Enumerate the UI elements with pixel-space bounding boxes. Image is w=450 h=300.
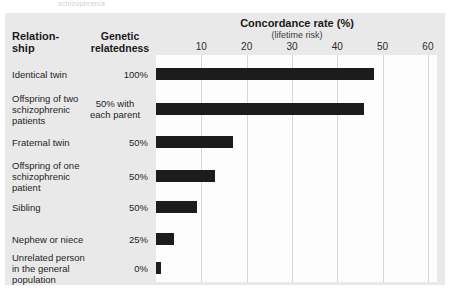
row-relatedness-line: 50% (82, 137, 148, 148)
bar-row-5 (156, 201, 197, 213)
row-relatedness-line: 50% (82, 202, 148, 213)
row-relatedness-line: each parent (80, 109, 150, 120)
gridline-10 (201, 55, 202, 282)
x-tick-20: 20 (234, 41, 260, 52)
bar-row-7 (156, 262, 161, 274)
row-label-line: population (12, 274, 98, 285)
gridline-40 (337, 55, 338, 282)
row-label-line: Offspring of one (12, 160, 98, 171)
row-relatedness-line: 25% (82, 234, 148, 245)
row-relatedness-6: 25% (82, 234, 148, 245)
row-relatedness-3: 50% (82, 137, 148, 148)
row-relatedness-5: 50% (82, 202, 148, 213)
row-relatedness-line: 50% (82, 171, 148, 182)
row-relatedness-line: 50% with (80, 98, 150, 109)
schizophrenia-concordance-figure: schizophrenia Relation- ship Genetic rel… (0, 0, 450, 300)
row-relatedness-1: 100% (82, 69, 148, 80)
plot-area (156, 55, 437, 282)
x-tick-60: 60 (415, 41, 441, 52)
row-label-line: patient (12, 182, 98, 193)
x-tick-30: 30 (279, 41, 305, 52)
x-tick-50: 50 (370, 41, 396, 52)
bar-row-1 (156, 68, 374, 80)
row-relatedness-line: 100% (82, 69, 148, 80)
row-relatedness-line: 0% (82, 263, 148, 274)
bar-row-3 (156, 136, 233, 148)
row-relatedness-7: 0% (82, 263, 148, 274)
x-tick-40: 40 (324, 41, 350, 52)
bar-row-6 (156, 233, 174, 245)
row-label-line: Unrelated person (12, 252, 98, 263)
gridline-30 (292, 55, 293, 282)
row-relatedness-2: 50% witheach parent (80, 98, 150, 120)
bar-row-4 (156, 170, 215, 182)
gridline-50 (383, 55, 384, 282)
gridline-60 (428, 55, 429, 282)
bar-row-2 (156, 103, 364, 115)
row-relatedness-4: 50% (82, 171, 148, 182)
gridline-20 (247, 55, 248, 282)
x-tick-10: 10 (188, 41, 214, 52)
